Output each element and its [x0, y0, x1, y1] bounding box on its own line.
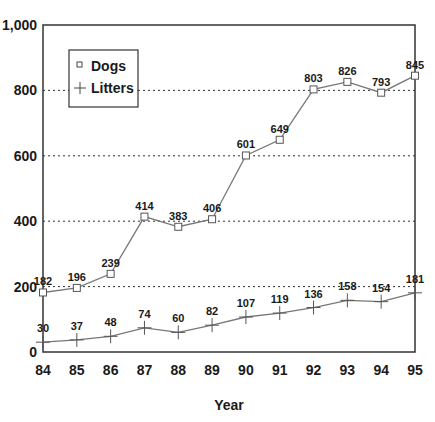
y-tick-label: 800: [14, 82, 38, 98]
plus-marker-icon: [374, 295, 388, 309]
x-tick-label: 89: [204, 362, 220, 378]
square-marker-icon: [412, 72, 419, 79]
data-label: 196: [68, 271, 86, 283]
data-label: 136: [304, 288, 322, 300]
square-marker-icon: [107, 270, 114, 277]
data-label: 601: [237, 138, 255, 150]
series-line: [43, 76, 415, 293]
data-label: 383: [169, 210, 187, 222]
square-marker-icon: [378, 89, 385, 96]
data-label: 845: [406, 59, 424, 71]
square-marker-icon: [141, 213, 148, 220]
y-tick-label: 600: [14, 148, 38, 164]
legend-label-litters: Litters: [91, 80, 134, 96]
legend-label-dogs: Dogs: [91, 58, 126, 74]
x-axis-title: Year: [214, 397, 244, 413]
plus-marker-icon: [273, 306, 287, 320]
data-label: 406: [203, 202, 221, 214]
data-label: 414: [135, 200, 154, 212]
plus-marker-icon: [70, 333, 84, 347]
series-litters: 303748746082107119136158154181: [36, 273, 424, 349]
data-label: 119: [271, 293, 289, 305]
square-marker-icon: [209, 216, 216, 223]
data-label: 82: [206, 305, 218, 317]
line-chart: 02004006008001,000 848586878889909192939…: [0, 0, 435, 422]
plus-marker-icon: [239, 310, 253, 324]
plus-marker-icon: [205, 318, 219, 332]
x-tick-label: 85: [69, 362, 85, 378]
square-marker-icon: [310, 86, 317, 93]
data-label: 37: [71, 320, 83, 332]
x-tick-label: 87: [137, 362, 153, 378]
plus-marker-icon: [171, 325, 185, 339]
plus-marker-icon: [36, 335, 50, 349]
data-label: 158: [338, 280, 356, 292]
data-label: 30: [37, 322, 49, 334]
square-marker-icon: [73, 284, 80, 291]
data-label: 803: [304, 72, 322, 84]
square-marker-icon: [242, 152, 249, 159]
data-label: 793: [372, 76, 390, 88]
data-label: 239: [101, 257, 119, 269]
square-marker-icon: [175, 223, 182, 230]
x-tick-label: 88: [170, 362, 186, 378]
y-axis-ticks: 02004006008001,000: [2, 17, 37, 360]
data-label: 60: [172, 312, 184, 324]
plus-marker-icon: [408, 286, 422, 300]
x-tick-label: 94: [373, 362, 389, 378]
data-label: 74: [138, 308, 151, 320]
square-marker-icon: [344, 78, 351, 85]
square-marker-icon: [40, 289, 47, 296]
data-label: 826: [338, 65, 356, 77]
plus-marker-icon: [340, 293, 354, 307]
data-label: 181: [406, 273, 424, 285]
y-tick-label: 400: [14, 213, 38, 229]
data-label: 154: [372, 282, 391, 294]
plus-marker-icon: [307, 301, 321, 315]
y-tick-label: 0: [29, 344, 37, 360]
data-label: 48: [105, 316, 117, 328]
data-label: 182: [34, 275, 52, 287]
x-tick-label: 93: [340, 362, 356, 378]
series-line: [43, 293, 415, 342]
x-tick-label: 86: [103, 362, 119, 378]
data-label: 649: [271, 123, 289, 135]
plus-marker-icon: [137, 321, 151, 335]
plus-marker-icon: [104, 329, 118, 343]
legend: Dogs Litters: [69, 50, 138, 107]
x-tick-label: 95: [407, 362, 423, 378]
square-marker-icon: [77, 62, 82, 67]
x-tick-label: 84: [35, 362, 51, 378]
x-tick-label: 91: [272, 362, 288, 378]
x-axis-ticks: 848586878889909192939495: [35, 362, 423, 378]
square-marker-icon: [276, 136, 283, 143]
y-tick-label: 1,000: [2, 17, 37, 33]
x-tick-label: 90: [238, 362, 254, 378]
x-tick-label: 92: [306, 362, 322, 378]
data-label: 107: [237, 297, 255, 309]
